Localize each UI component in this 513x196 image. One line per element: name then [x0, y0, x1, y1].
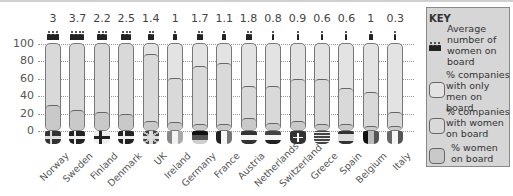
segment-women-on-board — [364, 126, 378, 130]
segment-women-on-board — [242, 118, 256, 130]
segment-companies-with-women — [364, 92, 378, 130]
swatch-with-women — [429, 118, 445, 134]
bar-netherlands — [265, 43, 281, 131]
flag-sweden-icon — [69, 131, 85, 144]
flag-italy-icon — [387, 131, 403, 144]
bar-germany — [192, 43, 208, 131]
bar-belgium — [363, 43, 379, 131]
y-tick-label: 100 — [0, 38, 34, 50]
avg-women-value: 0.3 — [377, 12, 413, 25]
y-tick-label: 0 — [0, 125, 34, 137]
bar-spain — [338, 43, 354, 131]
bar-austria — [241, 43, 257, 131]
y-tick-label: 80 — [0, 55, 34, 67]
segment-women-on-board — [291, 121, 305, 130]
segment-companies-with-women — [315, 79, 329, 130]
flag-belgium-icon — [363, 131, 379, 144]
key-label-average-women: Average number of women on board — [447, 23, 509, 67]
flag-norway-icon — [45, 131, 61, 144]
segment-women-on-board — [315, 124, 329, 130]
bar-norway — [45, 43, 61, 131]
flag-switzerland-icon — [290, 131, 306, 144]
segment-companies-with-women — [193, 66, 207, 130]
swatch-women-percent — [429, 148, 445, 164]
bar-finland — [94, 43, 110, 131]
segment-women-on-board — [193, 124, 207, 130]
segment-women-on-board — [95, 112, 109, 130]
flag-finland-icon — [94, 131, 110, 144]
bar-uk — [143, 43, 159, 131]
flag-greece-icon — [314, 131, 330, 144]
swatch-only-men — [429, 82, 445, 98]
bar-france — [216, 43, 232, 131]
flag-ireland-icon — [167, 131, 183, 144]
segment-women-on-board — [70, 110, 84, 130]
segment-women-on-board — [119, 114, 133, 130]
flag-uk-icon — [143, 131, 159, 144]
flag-germany-icon — [192, 131, 208, 144]
y-tick-label: 20 — [0, 108, 34, 120]
country-column-italy: 0.3Italy — [383, 0, 407, 196]
segment-women-on-board — [388, 126, 402, 130]
bar-sweden — [69, 43, 85, 131]
segment-women-on-board — [266, 123, 280, 130]
segment-women-on-board — [144, 121, 158, 130]
bar-italy — [387, 43, 403, 131]
chart-area: 0204060801003Norway3.7Sweden2.2Finland2.… — [0, 0, 420, 196]
key-label-women-percent: % women on board — [451, 142, 509, 164]
flag-austria-icon — [241, 131, 257, 144]
flag-france-icon — [216, 131, 232, 144]
bar-switzerland — [290, 43, 306, 131]
flag-spain-icon — [338, 131, 354, 144]
segment-companies-with-women — [144, 54, 158, 130]
chart-key: KEY Average number of women on board % c… — [426, 7, 510, 167]
segment-companies-with-women — [217, 63, 231, 130]
key-label-with-women: % companies with women on board — [446, 106, 510, 139]
flag-denmark-icon — [118, 131, 134, 144]
flag-netherlands-icon — [265, 131, 281, 144]
y-tick-label: 40 — [0, 90, 34, 102]
bar-denmark — [118, 43, 134, 131]
women-figures-icon — [429, 42, 441, 51]
segment-women-on-board — [168, 122, 182, 130]
segment-women-on-board — [339, 124, 353, 130]
segment-women-on-board — [46, 105, 60, 130]
bar-greece — [314, 43, 330, 131]
women-figures-icon — [377, 30, 413, 40]
y-tick-label: 60 — [0, 73, 34, 85]
bar-ireland — [167, 43, 183, 131]
segment-women-on-board — [217, 124, 231, 130]
